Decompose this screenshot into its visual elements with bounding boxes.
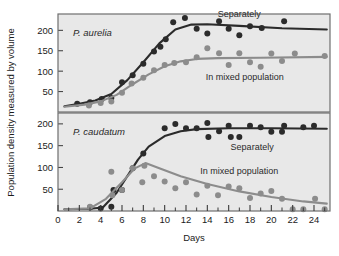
data-point bbox=[236, 185, 242, 191]
x-tick-label: 16 bbox=[223, 214, 234, 225]
data-point bbox=[98, 100, 104, 106]
data-point bbox=[183, 125, 189, 131]
data-point bbox=[182, 15, 188, 21]
data-point bbox=[162, 62, 168, 68]
x-tick-label: 20 bbox=[266, 214, 277, 225]
data-point bbox=[236, 32, 242, 38]
data-point bbox=[151, 67, 157, 73]
data-point bbox=[247, 23, 253, 29]
data-point bbox=[216, 50, 222, 56]
data-point bbox=[236, 134, 242, 140]
data-point bbox=[194, 26, 200, 32]
data-point bbox=[312, 196, 318, 202]
data-point bbox=[226, 26, 232, 32]
data-point bbox=[194, 125, 200, 131]
data-point bbox=[268, 188, 274, 194]
x-tick-label: 14 bbox=[202, 214, 213, 225]
data-point bbox=[151, 173, 157, 179]
data-point bbox=[311, 123, 317, 129]
data-point bbox=[226, 62, 232, 68]
data-point bbox=[268, 129, 274, 135]
data-point bbox=[109, 192, 115, 198]
data-point bbox=[163, 36, 169, 42]
data-point bbox=[258, 191, 264, 197]
data-point bbox=[183, 59, 189, 65]
data-point bbox=[139, 179, 145, 185]
top-panel: 50100150200P. aureliaSeparatelyIn mixed … bbox=[37, 9, 330, 112]
bottom-panel: 50100150200P. caudatumSeparatelyIn mixed… bbox=[37, 113, 330, 212]
annotation-in-mixed-population: In mixed population bbox=[200, 166, 278, 176]
data-point bbox=[119, 90, 125, 96]
x-tick-label: 18 bbox=[245, 214, 256, 225]
data-point bbox=[86, 102, 92, 108]
data-point bbox=[162, 178, 168, 184]
data-point bbox=[172, 121, 178, 127]
x-tick-label: 8 bbox=[141, 214, 146, 225]
data-point bbox=[108, 98, 114, 104]
data-point bbox=[119, 79, 125, 85]
data-point bbox=[130, 165, 136, 171]
data-point bbox=[281, 123, 287, 129]
species-label-p-aurelia: P. aurelia bbox=[73, 27, 112, 38]
data-point bbox=[268, 51, 274, 57]
annotation-separately: Separately bbox=[231, 142, 275, 152]
data-point bbox=[292, 51, 298, 57]
data-point bbox=[140, 75, 146, 81]
y-tick-label: 50 bbox=[42, 86, 53, 97]
data-point bbox=[258, 124, 264, 130]
y-tick-label: 200 bbox=[37, 25, 53, 36]
data-point bbox=[226, 184, 232, 190]
data-point bbox=[172, 185, 178, 191]
x-tick-label: 2 bbox=[77, 214, 82, 225]
y-tick-label: 50 bbox=[42, 184, 53, 195]
data-point bbox=[194, 54, 200, 60]
data-point bbox=[216, 128, 222, 134]
data-point bbox=[130, 72, 136, 78]
x-tick-label: 12 bbox=[181, 214, 192, 225]
x-tick-label: 24 bbox=[309, 214, 320, 225]
y-tick-label: 200 bbox=[37, 118, 53, 129]
y-axis-title: Population density measured by volume bbox=[5, 28, 16, 196]
data-point bbox=[322, 53, 328, 59]
data-point bbox=[247, 59, 253, 65]
y-tick-label: 150 bbox=[37, 45, 53, 56]
x-tick-label: 10 bbox=[159, 214, 170, 225]
data-point bbox=[119, 187, 125, 193]
data-point bbox=[236, 50, 242, 56]
data-point bbox=[215, 192, 221, 198]
x-tick-label: 22 bbox=[287, 214, 298, 225]
x-axis-title: Days bbox=[183, 232, 205, 243]
y-tick-label: 100 bbox=[37, 66, 53, 77]
species-label-p-caudatum: P. caudatum bbox=[73, 126, 125, 137]
data-point bbox=[204, 45, 210, 51]
data-point bbox=[259, 25, 265, 31]
y-tick-label: 100 bbox=[37, 162, 53, 173]
data-point bbox=[279, 196, 285, 202]
data-point bbox=[151, 49, 157, 55]
data-point bbox=[170, 19, 176, 25]
data-point bbox=[226, 123, 232, 129]
data-point bbox=[279, 129, 285, 135]
data-point bbox=[171, 60, 177, 66]
annotation-separately: Separately bbox=[218, 9, 262, 19]
population-density-chart: 50100150200P. aureliaSeparatelyIn mixed … bbox=[0, 0, 339, 256]
figure-container: 50100150200P. aureliaSeparatelyIn mixed … bbox=[0, 0, 339, 256]
data-point bbox=[129, 80, 135, 86]
data-point bbox=[204, 120, 210, 126]
annotation-in-mixed-population: In mixed population bbox=[206, 72, 284, 82]
data-point bbox=[157, 44, 163, 50]
data-point bbox=[141, 163, 147, 169]
data-point bbox=[300, 124, 306, 130]
data-point bbox=[204, 31, 210, 37]
x-tick-label: 4 bbox=[98, 214, 103, 225]
data-point bbox=[140, 151, 146, 157]
data-point bbox=[258, 64, 264, 70]
data-point bbox=[279, 58, 285, 64]
x-tick-label: 0 bbox=[55, 214, 60, 225]
data-point bbox=[162, 125, 168, 131]
data-point bbox=[247, 123, 253, 129]
data-point bbox=[204, 183, 210, 189]
data-point bbox=[194, 191, 200, 197]
data-point bbox=[281, 18, 287, 24]
data-point bbox=[228, 134, 234, 140]
